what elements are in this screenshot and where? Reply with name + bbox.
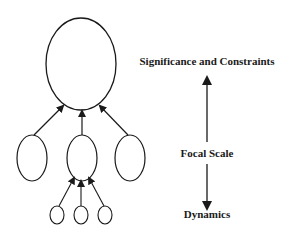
significance-label: Significance and Constraints: [139, 55, 274, 67]
focal-scale-label: Focal Scale: [181, 147, 234, 159]
edge-bottom-right-to-center: [89, 178, 104, 206]
bottom-node-left: [50, 206, 64, 224]
middle-node-center: [67, 135, 97, 181]
middle-node-left: [17, 135, 47, 181]
bottom-node-center: [74, 206, 88, 224]
edge-left-to-top: [34, 106, 63, 135]
edge-right-to-top: [100, 106, 128, 135]
bottom-node-right: [98, 206, 112, 224]
dynamics-label: Dynamics: [184, 208, 230, 220]
hierarchy-diagram: [0, 0, 293, 238]
middle-node-right: [115, 135, 145, 181]
edge-bottom-left-to-center: [59, 178, 74, 206]
top-level-node: [46, 18, 116, 110]
